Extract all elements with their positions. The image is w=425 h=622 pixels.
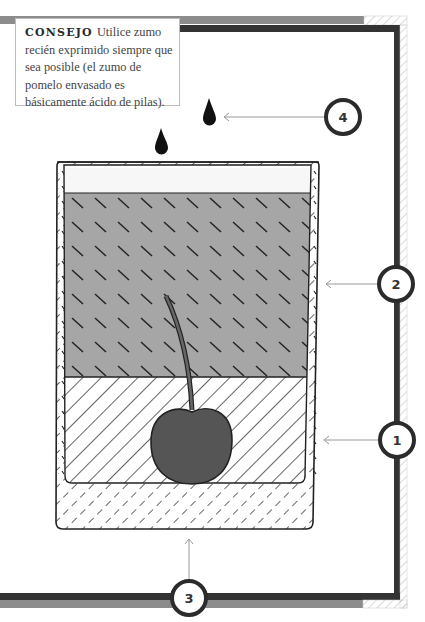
cherry-fruit: [151, 409, 232, 484]
glass-wall-right: [311, 165, 317, 483]
frame-right-dark: [394, 25, 400, 600]
callout-number: 4: [338, 110, 347, 125]
drop-icon: [203, 98, 216, 126]
frame-top-hatch: [364, 16, 407, 25]
frame-bottom-hatch: [363, 600, 407, 608]
callout-number: 1: [392, 433, 401, 448]
frame-top-dark: [180, 25, 400, 32]
frame-right-hatch: [400, 25, 407, 608]
callout-badge-4: 4: [326, 100, 360, 134]
callout-number: 3: [184, 591, 193, 606]
callout-badge-1: 1: [380, 423, 414, 457]
gray-layer: [60, 193, 320, 377]
callout-badge-3: 3: [172, 581, 206, 615]
glass-wall-left: [58, 165, 64, 483]
callout-number: 2: [391, 277, 400, 292]
drop-icon: [155, 128, 168, 155]
tip-box: CONSEJOUtilice zumo recién exprimido sie…: [15, 18, 180, 106]
callout-badge-2: 2: [379, 267, 413, 301]
tip-title: CONSEJO: [25, 26, 93, 39]
